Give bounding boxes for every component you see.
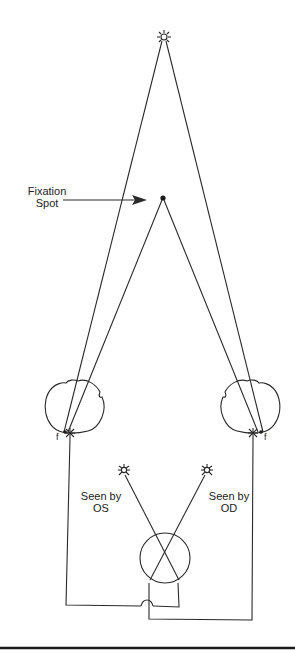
fixation-dot	[160, 195, 165, 200]
ray-star-to-right-eye	[166, 41, 263, 432]
right-fovea-dot	[259, 430, 263, 434]
right-eye-star-icon	[248, 428, 258, 438]
right-fovea-label: f	[264, 432, 267, 442]
seen-by-od-label: Seen by OD	[204, 490, 254, 514]
left-wire	[66, 438, 141, 606]
ray-fixation-to-right-eye	[164, 200, 258, 432]
od-star-icon	[201, 464, 213, 475]
od-crossing-line	[150, 475, 205, 580]
right-wire	[149, 438, 253, 620]
left-eye-star-icon	[65, 428, 75, 438]
fixation-spot-label: Fixation Spot	[20, 185, 74, 209]
fusion-circle	[140, 533, 190, 583]
os-star-icon	[118, 464, 130, 475]
left-wire-return	[153, 583, 179, 607]
diagram-stage: Fixation Spot Seen by OS Seen by OD f f	[0, 0, 295, 653]
os-crossing-line	[125, 475, 179, 580]
distant-star-icon	[157, 30, 171, 42]
binocular-vision-diagram	[0, 0, 295, 653]
wire-hop	[141, 600, 153, 606]
ray-fixation-to-left-eye	[68, 200, 162, 432]
right-eye-outline	[221, 380, 280, 433]
left-fovea-label: f	[56, 432, 59, 442]
seen-by-os-label: Seen by OS	[76, 490, 126, 514]
